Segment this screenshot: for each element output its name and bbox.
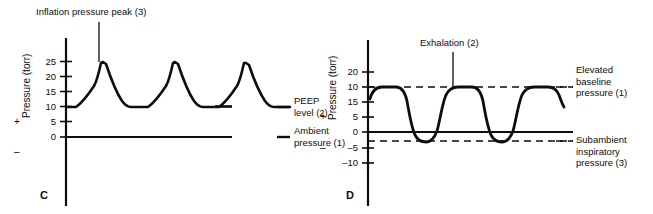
panel-c-callout-inflation-pressure-peak: Inflation pressure peak (3) (36, 6, 146, 18)
panel-d-tick-neg10: –10 (328, 158, 358, 168)
panel-d-tick-0: 0 (328, 127, 358, 137)
panel-c-tick-10: 10 (26, 102, 56, 112)
panel-d-tick-15: 15 (328, 97, 358, 107)
panel-d-negative-sign: – (320, 143, 326, 153)
panel-d-label-subambient-inspiratory-pressure: Subambient inspiratory pressure (3) (576, 134, 627, 169)
panel-c-tick-0: 0 (26, 132, 56, 142)
panel-d-tick-20: 20 (328, 67, 358, 77)
panel-d-callout-exhalation: Exhalation (2) (420, 37, 479, 49)
panel-d-plot (320, 0, 653, 214)
panel-d-tick-10: 10 (328, 82, 358, 92)
panel-c-waveform (68, 62, 290, 107)
panel-d-label-elevated-baseline-pressure: Elevated baseline pressure (1) (576, 64, 627, 99)
panel-c-positive-sign: + (14, 117, 20, 127)
panel-d: Pressure (torr) 20 10 15 5 0 –5 –10 + – … (320, 0, 653, 214)
panel-c-letter: C (40, 190, 48, 201)
panel-d-tick-5: 5 (328, 112, 358, 122)
panel-d-tick-neg5: –5 (328, 143, 358, 153)
panel-c-tick-5: 5 (26, 117, 56, 127)
pressure-waveform-figure: Pressure (torr) 25 20 15 10 5 0 + – Infl… (0, 0, 653, 214)
panel-c-side-label-stubs (277, 107, 290, 137)
panel-c-negative-sign: – (14, 147, 20, 157)
panel-d-letter: D (346, 190, 354, 201)
panel-d-positive-sign: + (320, 112, 326, 122)
panel-c-tick-20: 20 (26, 72, 56, 82)
panel-c-tick-25: 25 (26, 57, 56, 67)
panel-c-tick-15: 15 (26, 87, 56, 97)
panel-c: Pressure (torr) 25 20 15 10 5 0 + – Infl… (0, 0, 320, 214)
panel-d-waveform (370, 87, 564, 142)
